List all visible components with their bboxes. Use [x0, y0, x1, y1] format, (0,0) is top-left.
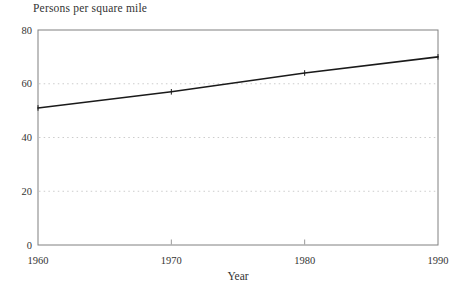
y-tick-label: 0	[27, 240, 32, 251]
x-tick-label: 1960	[28, 255, 49, 266]
x-tick-label: 1990	[428, 255, 449, 266]
x-tick-label: 1980	[294, 255, 315, 266]
x-axis-title: Year	[38, 270, 438, 282]
data-line	[38, 57, 438, 108]
chart: Persons per square mile 0204060801960197…	[0, 0, 462, 297]
y-tick-label: 40	[22, 132, 33, 143]
x-tick-label: 1970	[161, 255, 182, 266]
y-tick-label: 60	[22, 78, 33, 89]
y-tick-label: 80	[22, 25, 33, 36]
y-tick-label: 20	[22, 186, 33, 197]
plot-svg: 0204060801960197019801990	[0, 0, 462, 297]
